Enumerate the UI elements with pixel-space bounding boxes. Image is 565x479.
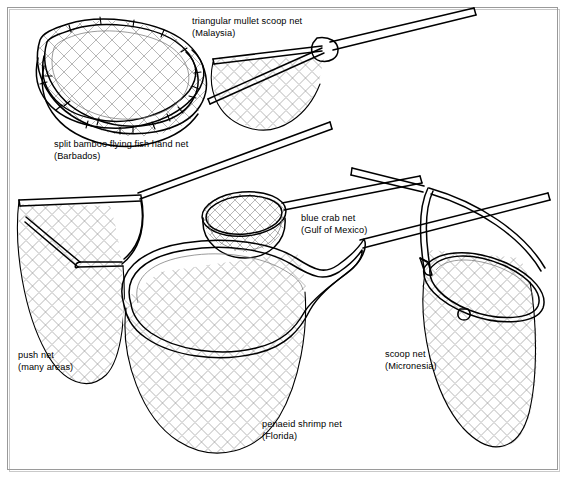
shrimp-handle-tip xyxy=(548,193,550,200)
label-triangular-mullet-region: (Malaysia) xyxy=(192,28,235,38)
label-split-bamboo: split bamboo flying fish hand net (Barba… xyxy=(54,139,189,161)
net-scoop-micronesia xyxy=(351,168,545,462)
push-handle-tip xyxy=(330,122,332,129)
label-scoop-net-name: scoop net xyxy=(385,349,426,359)
label-triangular-mullet-name: triangular mullet scoop net xyxy=(192,16,303,26)
push-brace-d xyxy=(78,266,123,267)
label-penaeid-shrimp: penaeid shrimp net (Florida) xyxy=(262,419,342,441)
push-top-bar-a xyxy=(19,195,141,200)
push-bow-a xyxy=(122,196,143,264)
shrimp-handle-a xyxy=(360,193,548,240)
mullet-handle-a xyxy=(330,8,474,42)
push-top-bar-cap xyxy=(19,200,20,206)
label-split-bamboo-name: split bamboo flying fish hand net xyxy=(54,139,189,149)
net-triangular-mullet xyxy=(205,8,476,140)
net-split-bamboo xyxy=(30,10,215,160)
nets-illustration-canvas: triangular mullet scoop net (Malaysia) s… xyxy=(0,0,565,479)
label-scoop-net-region: (Micronesia) xyxy=(385,361,437,371)
label-blue-crab: blue crab net (Gulf of Mexico) xyxy=(301,213,367,235)
label-blue-crab-region: (Gulf of Mexico) xyxy=(301,225,367,235)
mullet-handle-b xyxy=(333,15,476,50)
label-blue-crab-name: blue crab net xyxy=(301,213,356,223)
label-push-net-name: push net xyxy=(18,350,54,360)
fishing-nets-figure: triangular mullet scoop net (Malaysia) s… xyxy=(0,0,565,479)
crab-handle-tip xyxy=(420,176,422,183)
label-split-bamboo-region: (Barbados) xyxy=(54,151,100,161)
push-top-bar-b xyxy=(20,201,141,206)
mullet-diag-spar-cap xyxy=(208,99,210,104)
label-penaeid-shrimp-region: (Florida) xyxy=(262,431,297,441)
mullet-top-spar-cap xyxy=(213,59,214,64)
label-push-net-region: (many areas) xyxy=(18,362,73,372)
push-bow-b xyxy=(124,201,142,259)
label-penaeid-shrimp-name: penaeid shrimp net xyxy=(262,419,342,429)
scoop-handle-tip xyxy=(351,168,352,175)
label-triangular-mullet: triangular mullet scoop net (Malaysia) xyxy=(192,16,303,38)
shrimp-handle-b xyxy=(363,200,550,248)
